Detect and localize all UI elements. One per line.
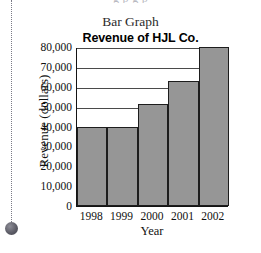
x-tick-label: 1998 <box>76 210 106 222</box>
y-tick-label: 20,000 <box>10 161 72 173</box>
y-tick-label: 70,000 <box>10 62 72 74</box>
y-tick-label: 40,000 <box>10 122 72 134</box>
y-tick-label: 0 <box>10 201 72 213</box>
x-tick-label: 2000 <box>137 210 167 222</box>
plot-area <box>76 48 228 207</box>
bar <box>77 127 107 207</box>
y-axis-tick-labels: 010,00020,00030,00040,00050,00060,00070,… <box>8 0 72 253</box>
y-tick-label: 10,000 <box>10 181 72 193</box>
x-tick-label: 1999 <box>106 210 136 222</box>
y-tick-label: 50,000 <box>10 102 72 114</box>
y-tick-label: 80,000 <box>10 42 72 54</box>
plot-inner <box>77 48 228 206</box>
x-tick-label: 2002 <box>198 210 228 222</box>
bar <box>168 81 198 206</box>
bar <box>107 127 137 207</box>
x-axis-title: Year <box>76 224 228 239</box>
y-tick-label: 30,000 <box>10 141 72 153</box>
y-tick-label: 60,000 <box>10 82 72 94</box>
x-tick-label: 2001 <box>167 210 197 222</box>
bar <box>138 104 168 206</box>
bar <box>199 47 229 206</box>
